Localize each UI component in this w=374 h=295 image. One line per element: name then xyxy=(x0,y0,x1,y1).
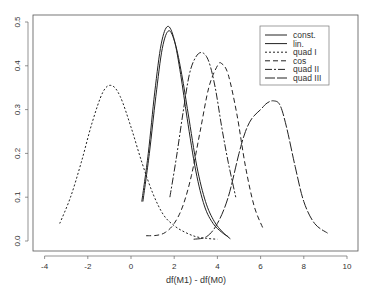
x-tick-label: 2 xyxy=(172,262,177,271)
legend: const.lin.quad Icosquad IIquad III xyxy=(260,26,329,85)
series-line-const xyxy=(142,26,228,236)
x-tick-label: -2 xyxy=(84,262,92,271)
y-tick-label: 0.5 xyxy=(13,16,22,28)
y-axis: 0.00.10.20.30.40.5 xyxy=(13,16,28,247)
x-tick-label: 10 xyxy=(343,262,352,271)
x-tick-label: 8 xyxy=(302,262,307,271)
y-tick-label: 0.3 xyxy=(13,103,22,115)
x-tick-label: 4 xyxy=(215,262,220,271)
series-line-cos xyxy=(146,63,263,236)
series-line-quad-ii xyxy=(170,52,236,197)
legend-label: quad III xyxy=(293,73,321,83)
density-line-chart: 0.00.10.20.30.40.5 -4-20246810 df(M1) - … xyxy=(0,0,374,295)
x-tick-label: -4 xyxy=(41,262,49,271)
x-tick-label: 6 xyxy=(258,262,263,271)
series-line-quad-iii xyxy=(194,101,328,239)
y-tick-label: 0.0 xyxy=(13,235,22,247)
y-tick-label: 0.4 xyxy=(13,60,22,72)
x-axis: -4-20246810 xyxy=(41,256,352,271)
x-axis-label: df(M1) - df(M0) xyxy=(166,275,226,285)
x-tick-label: 0 xyxy=(129,262,134,271)
series-line-lin xyxy=(143,31,230,239)
y-tick-label: 0.1 xyxy=(13,191,22,203)
y-tick-label: 0.2 xyxy=(13,147,22,159)
